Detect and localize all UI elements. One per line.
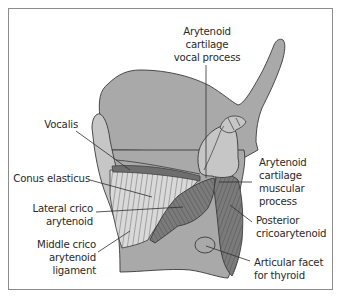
label-middle-cricoarytenoid-ligament: Middle crico arytenoid ligament [20,238,96,277]
label-arytenoid-muscular-process: Arytenoid cartilage muscular process [259,156,307,208]
label-posterior-cricoarytenoid: Posterior cricoarytenoid [256,214,326,240]
label-lateral-cricoarytenoid: Lateral crico arytenoid [20,202,93,228]
label-arytenoid-vocal-process: Arytenoid cartilage vocal process [172,25,242,64]
label-articular-facet-thyroid: Articular facet for thyroid [254,256,323,282]
articular-facet-shape [195,237,215,253]
label-vocalis: Vocalis [30,118,78,131]
label-conus-elasticus: Conus elasticus [10,172,90,185]
